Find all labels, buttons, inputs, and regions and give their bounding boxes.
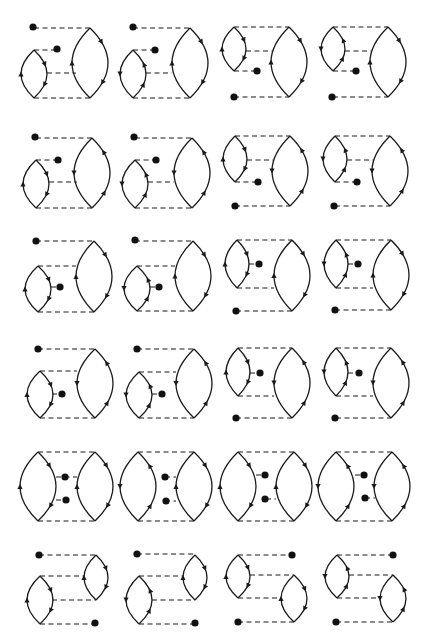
external-vertex-dot — [130, 133, 137, 140]
arrow-icon — [24, 597, 29, 602]
fermion-line-left — [271, 27, 289, 97]
arrow-icon — [322, 574, 327, 579]
fermion-line-left — [274, 348, 292, 418]
fermion-loop — [169, 28, 208, 98]
fermion-loop — [24, 371, 54, 418]
fermion-line-right — [237, 240, 249, 288]
fermion-line-left — [122, 160, 135, 208]
fermion-line-left — [124, 266, 137, 311]
fermion-line-right — [235, 136, 247, 182]
fermion-loop — [370, 240, 409, 310]
arrow-icon — [271, 273, 276, 278]
fermion-line-right — [294, 452, 312, 521]
diagram-r3c3 — [222, 240, 310, 315]
fermion-line-left — [274, 240, 292, 311]
arrow-icon — [172, 273, 177, 278]
external-vertex-dot — [331, 414, 338, 421]
external-vertex-dot — [330, 202, 337, 209]
diagram-r3c2 — [121, 236, 211, 311]
fermion-loop — [173, 452, 212, 521]
diagram-r2c1 — [20, 133, 110, 208]
external-vertex-dot — [34, 345, 41, 352]
fermion-line-right — [393, 575, 406, 622]
arrow-icon — [22, 286, 27, 291]
fermion-line-left — [27, 576, 40, 624]
fermion-line-left — [321, 27, 333, 71]
fermion-loop — [370, 348, 409, 418]
fermion-line-right — [336, 240, 348, 288]
arrow-icon — [73, 274, 78, 279]
fermion-line-left — [222, 27, 234, 71]
fermion-line-right — [190, 28, 208, 98]
diagram-figure — [0, 0, 428, 640]
fermion-loop — [321, 240, 349, 288]
fermion-loop — [17, 452, 56, 521]
fermion-line-left — [183, 555, 195, 600]
fermion-loop — [119, 160, 149, 208]
fermion-line-right — [290, 136, 308, 206]
fermion-line-right — [391, 240, 409, 310]
fermion-loop — [269, 136, 308, 206]
diagram-r1c4 — [318, 27, 406, 101]
fermion-line-right — [194, 452, 212, 521]
external-vertex-dot — [256, 369, 263, 376]
fermion-loop — [315, 452, 354, 521]
fermion-line-right — [34, 50, 47, 98]
diagram-r1c1 — [18, 23, 108, 98]
fermion-line-right — [335, 136, 347, 182]
fermion-loop — [217, 452, 256, 521]
fermion-loop — [219, 27, 247, 71]
fermion-line-left — [126, 576, 139, 624]
arrow-icon — [173, 381, 178, 386]
arrow-icon — [269, 168, 274, 173]
external-vertex-dot — [158, 390, 165, 397]
fermion-line-right — [391, 348, 409, 418]
fermion-loop — [321, 348, 349, 396]
fermion-loop — [74, 349, 113, 418]
fermion-line-right — [289, 27, 307, 97]
arrow-icon — [370, 380, 375, 385]
fermion-line-right — [193, 241, 211, 311]
fermion-line-right — [137, 266, 150, 311]
diagram-r2c4 — [320, 136, 408, 210]
external-vertex-dot — [353, 178, 360, 185]
external-vertex-dot — [58, 390, 65, 397]
arrow-icon — [223, 369, 228, 374]
external-vertex-dot — [328, 93, 335, 100]
arrow-icon — [271, 380, 276, 385]
fermion-loop — [117, 452, 156, 521]
external-vertex-dot — [62, 496, 69, 503]
fermion-line-left — [23, 160, 36, 208]
fermion-loop — [223, 348, 251, 396]
diagram-r5c3 — [217, 452, 312, 521]
external-vertex-dot — [332, 618, 339, 625]
fermion-line-right — [292, 348, 310, 418]
arrow-icon — [223, 574, 228, 579]
fermion-loop — [20, 160, 50, 208]
external-vertex-dot — [151, 46, 158, 53]
arrow-icon — [217, 484, 222, 489]
diagram-r2c3 — [220, 136, 308, 210]
arrow-icon — [321, 261, 326, 266]
fermion-line-right — [139, 372, 152, 418]
fermion-line-left — [374, 452, 392, 521]
external-vertex-dot — [234, 618, 241, 625]
external-vertex-dot — [230, 93, 237, 100]
external-vertex-dot — [131, 236, 138, 243]
arrow-icon — [268, 59, 273, 64]
fermion-line-left — [27, 371, 40, 418]
fermion-line-right — [388, 27, 406, 97]
fermion-line-right — [133, 50, 146, 98]
diagram-r3c4 — [321, 240, 409, 314]
fermion-line-right — [90, 28, 108, 98]
fermion-line-right — [294, 575, 307, 622]
external-vertex-dot — [360, 471, 367, 478]
external-vertex-dot — [355, 369, 362, 376]
fermion-line-right — [38, 266, 51, 312]
fermion-loop — [172, 241, 211, 311]
external-vertex-dot — [191, 619, 198, 626]
fermion-loop — [22, 266, 52, 312]
fermion-line-right — [336, 348, 348, 396]
fermion-line-right — [337, 555, 349, 598]
fermion-line-left — [223, 136, 235, 182]
